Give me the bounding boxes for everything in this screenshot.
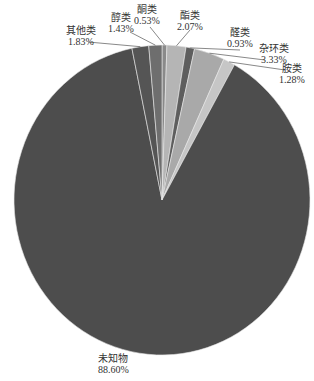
label-amines: 胺类1.28%: [279, 63, 305, 85]
label-ketones: 酮类0.53%: [134, 4, 160, 26]
leader-line: [177, 30, 190, 46]
label-heterocycles: 杂环类3.33%: [259, 43, 289, 65]
leader-line: [150, 27, 164, 45]
label-alcohols: 醇类1.43%: [108, 12, 134, 34]
label-others: 其他类1.83%: [66, 25, 96, 47]
label-aldehydes: 醛类0.93%: [227, 27, 253, 49]
label-esters: 酯类2.07%: [177, 10, 203, 32]
label-unknown: 未知物88.60%: [98, 353, 129, 375]
